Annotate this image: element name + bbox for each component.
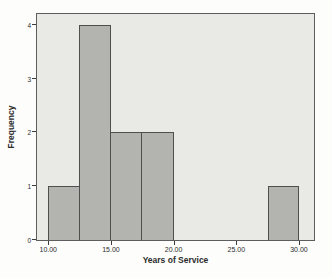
y-axis-tick xyxy=(32,185,36,186)
histogram-bar xyxy=(79,25,111,240)
x-axis-tick xyxy=(236,241,237,245)
y-axis-tick xyxy=(32,239,36,240)
x-axis-tick xyxy=(111,241,112,245)
y-axis-tick xyxy=(32,78,36,79)
histogram-bar xyxy=(110,132,142,240)
histogram-bar xyxy=(268,186,299,240)
x-axis-tick xyxy=(299,241,300,245)
histogram-bar xyxy=(141,132,173,240)
y-axis-title-box: Frequency xyxy=(2,14,18,240)
y-axis-tick xyxy=(32,24,36,25)
x-axis-tick-label: 20.00 xyxy=(165,246,183,254)
x-axis-tick xyxy=(48,241,49,245)
x-axis-tick xyxy=(174,241,175,245)
histogram-bar xyxy=(48,186,79,240)
x-axis-tick-label: 15.00 xyxy=(102,246,120,254)
y-axis-title: Frequency xyxy=(5,106,15,149)
x-axis-tick-label: 30.00 xyxy=(290,246,308,254)
x-axis-tick-label: 25.00 xyxy=(228,246,246,254)
histogram-figure: 10.0015.0020.0025.0030.0001234 Frequency… xyxy=(0,0,332,278)
plot-content: 10.0015.0020.0025.0030.0001234 xyxy=(37,14,314,240)
y-axis-tick xyxy=(32,131,36,132)
x-axis-title: Years of Service xyxy=(37,255,314,265)
x-axis-tick-label: 10.00 xyxy=(40,246,58,254)
